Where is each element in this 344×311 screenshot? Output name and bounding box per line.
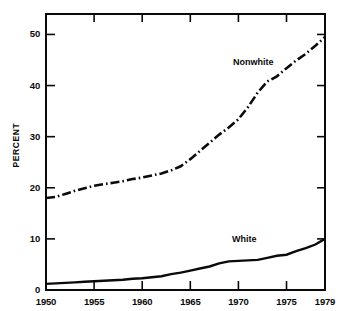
series-label-nonwhite: Nonwhite xyxy=(233,57,274,67)
x-tick-label-1955: 1955 xyxy=(72,296,116,307)
x-tick-label-1975: 1975 xyxy=(265,296,309,307)
y-tick-label-40: 40 xyxy=(4,80,40,91)
y-tick-label-30: 30 xyxy=(4,131,40,142)
x-tick-label-1950: 1950 xyxy=(24,296,68,307)
top-axis-tick-marks xyxy=(46,14,325,22)
y-axis-tick-marks xyxy=(46,34,55,290)
series-line-nonwhite xyxy=(46,37,325,198)
x-tick-label-1970: 1970 xyxy=(216,296,260,307)
x-tick-label-1960: 1960 xyxy=(120,296,164,307)
y-tick-label-0: 0 xyxy=(4,284,40,295)
right-axis-tick-marks xyxy=(317,34,325,290)
x-tick-label-1965: 1965 xyxy=(168,296,212,307)
y-tick-label-50: 50 xyxy=(4,28,40,39)
series-label-white: White xyxy=(232,234,257,244)
line-chart-canvas xyxy=(0,0,344,311)
y-tick-label-10: 10 xyxy=(4,233,40,244)
y-axis-title: PERCENT xyxy=(11,105,21,185)
y-tick-label-20: 20 xyxy=(4,182,40,193)
x-tick-label-1979: 1979 xyxy=(303,296,344,307)
axes-frame xyxy=(46,14,325,290)
chart-figure: PERCENT 01020304050 19501955196019651970… xyxy=(0,0,344,311)
series-line-white xyxy=(46,239,325,284)
